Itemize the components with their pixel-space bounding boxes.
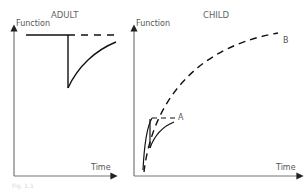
figure-caption: Fig. 1.1 [12, 182, 34, 189]
child-curves [143, 33, 278, 172]
child-x-axis-label: Time [276, 164, 296, 172]
adult-axes [14, 28, 114, 176]
child-y-axis-label: Function [136, 20, 170, 28]
adult-x-axis-label: Time [91, 164, 111, 172]
adult-title: ADULT [51, 11, 78, 20]
adult-curves [26, 35, 116, 88]
diagram-root: ADULT Function Time CHILD Function Time … [0, 0, 308, 192]
diagram-canvas [0, 0, 308, 192]
child-title: CHILD [203, 11, 229, 20]
child-axes [134, 28, 300, 176]
adult-y-axis-label: Function [16, 20, 50, 28]
curve-label-b: B [283, 37, 289, 45]
curve-label-a: A [178, 114, 183, 122]
